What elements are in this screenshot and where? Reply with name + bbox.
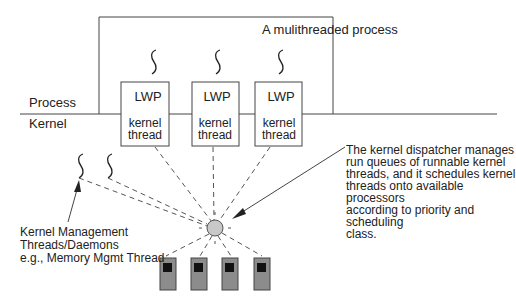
user-thread-icon-3 [279,50,283,74]
process-title: A mulithreaded process [262,23,398,37]
lwp-label-1: LWP [124,89,172,104]
processors [160,258,270,290]
processor-2 [191,258,207,290]
dispatcher-note-leader [236,147,345,216]
kernel-thread-icon-1 [79,154,83,178]
user-thread-icon-2 [216,50,220,74]
processor-4 [254,258,270,290]
kernel-arrowhead-icon [74,180,81,192]
processor-3 [222,258,238,290]
kernel-region-label: Kernel [29,117,67,131]
lwp-label-3: LWP [257,89,305,104]
kernel-thread-icon-2 [108,154,112,178]
user-thread-icon-1 [152,50,156,74]
lwp-sublabel-3b: thread [255,129,303,141]
lwp-sublabel-2b: thread [191,129,239,141]
processor-4-chip [257,263,266,272]
kernel-threads-note: Kernel Management Threads/Daemons e.g., … [20,226,165,265]
processor-3-chip [225,263,234,272]
lwp-sublabel-1b: thread [121,129,169,141]
dispatcher-note: The kernel dispatcher manages run queues… [346,144,516,240]
processor-2-chip [194,263,203,272]
dispatcher-arrowhead-icon [232,208,246,219]
lwp-label-2: LWP [193,89,241,104]
dispatcher-node [207,220,223,236]
process-region-label: Process [29,96,76,110]
